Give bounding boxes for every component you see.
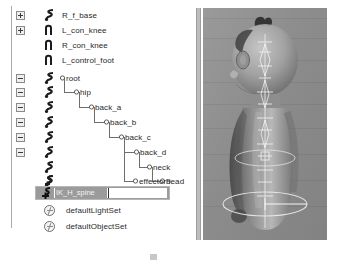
outliner-row[interactable]: defaultLightSet [0,203,190,218]
joint-chain-icon [42,130,58,145]
joint-chain-icon [42,115,58,130]
outliner-row[interactable]: R_con_knee [0,38,190,53]
outliner-row-label: root [66,71,80,86]
expand-toggle-icon[interactable] [16,11,25,20]
set-node-icon [44,221,55,232]
collapse-toggle-icon[interactable] [16,103,25,112]
caption-marker-icon [150,254,157,260]
joint-chain-icon [42,85,58,100]
outliner-row-label: back_d [140,145,166,160]
collapse-toggle-icon[interactable] [16,88,25,97]
outliner-row[interactable]: neck [0,160,190,175]
outliner-row[interactable]: R_f_base [0,8,190,23]
outliner-row-label: hip [80,85,91,100]
joint-chain-icon [42,145,58,160]
character-render [203,8,327,240]
collapse-toggle-icon[interactable] [16,148,25,157]
outliner-row-label: defaultObjectSet [66,219,127,234]
outliner-row[interactable]: L_control_foot [0,53,190,68]
joint-curve-icon [42,38,58,53]
outliner-panel[interactable]: R_f_base L_con_knee R_con_knee L_control… [0,0,190,266]
outliner-row-label: back_a [95,100,121,115]
outliner-row[interactable]: back_d [0,145,190,160]
joint-chain-icon [42,8,58,23]
outliner-row[interactable]: root [0,71,190,86]
ik-handle-icon [40,186,56,201]
viewport-left-edge [196,8,201,240]
outliner-row-label: L_control_foot [62,53,114,68]
outliner-row-label: defaultLightSet [66,203,121,218]
outliner-row[interactable]: defaultObjectSet [0,219,190,234]
outliner-row[interactable]: back_c [0,130,190,145]
set-node-icon [44,205,55,216]
joint-curve-icon [42,53,58,68]
caption [150,252,220,262]
outliner-row-label: back_b [110,115,136,130]
text-caret [108,188,109,198]
outliner-row[interactable]: hip [0,85,190,100]
outliner-row-label: back_c [125,130,151,145]
outliner-row-label: neck [153,160,170,175]
outliner-row-label: R_f_base [62,8,97,23]
viewport-3d[interactable] [203,8,327,240]
collapse-toggle-icon[interactable] [16,133,25,142]
joint-curve-icon [42,23,58,38]
joint-chain-icon [42,71,58,86]
outliner-row[interactable]: L_con_knee [0,23,190,38]
outliner-row-label: R_con_knee [62,38,108,53]
outliner-row[interactable]: back_a [0,100,190,115]
joint-chain-icon [42,160,58,175]
expand-toggle-icon[interactable] [16,26,25,35]
collapse-toggle-icon[interactable] [16,118,25,127]
outliner-row-label: L_con_knee [62,23,107,38]
collapse-toggle-icon[interactable] [16,74,25,83]
rename-input-value[interactable]: IK_H_spine [55,188,107,198]
outliner-row[interactable]: back_b [0,115,190,130]
joint-chain-icon [42,100,58,115]
